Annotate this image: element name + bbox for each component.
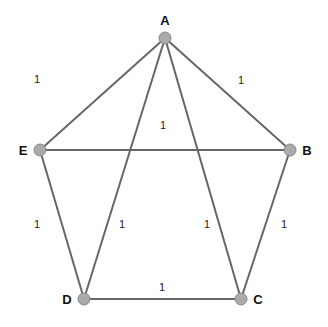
edge-weight-label: 1 — [238, 74, 244, 86]
edge-a-e — [40, 38, 165, 150]
node-e — [34, 144, 46, 156]
node-label-d: D — [62, 292, 71, 307]
graph-canvas: 11111111 ABCDE — [0, 0, 328, 327]
node-c — [235, 293, 247, 305]
node-d — [78, 293, 90, 305]
node-label-e: E — [19, 143, 28, 158]
edge-weight-label: 1 — [204, 218, 210, 230]
edge-e-d — [40, 150, 84, 299]
node-label-b: B — [302, 143, 311, 158]
edge-weight-label: 1 — [34, 218, 40, 230]
node-labels-group: ABCDE — [19, 13, 312, 307]
node-b — [284, 144, 296, 156]
edge-a-d — [84, 38, 165, 299]
node-a — [159, 32, 171, 44]
edge-a-b — [165, 38, 290, 150]
edge-a-c — [165, 38, 241, 299]
edges-group — [40, 38, 290, 299]
edge-weight-label: 1 — [159, 281, 165, 293]
edge-weight-label: 1 — [160, 119, 166, 131]
edge-weight-label: 1 — [119, 218, 125, 230]
node-label-a: A — [160, 13, 170, 28]
edge-weight-label: 1 — [281, 218, 287, 230]
node-label-c: C — [253, 292, 263, 307]
edge-weight-label: 1 — [34, 73, 40, 85]
